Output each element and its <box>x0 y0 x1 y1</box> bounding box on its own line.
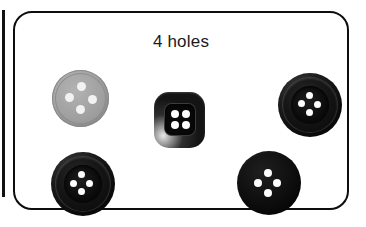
button-hole <box>77 82 86 91</box>
button-black-rimmed-top-right <box>278 73 342 137</box>
button-rim <box>55 73 106 124</box>
button-hole <box>88 95 97 104</box>
button-gray-round <box>52 70 109 127</box>
button-hole <box>254 179 262 187</box>
panel-title: 4 holes <box>15 33 347 50</box>
button-hole <box>182 110 190 118</box>
button-hole <box>70 180 77 187</box>
button-hole <box>86 180 93 187</box>
button-rim <box>239 153 299 213</box>
button-hole <box>306 109 313 116</box>
button-hole <box>264 189 272 197</box>
button-hole <box>171 121 179 129</box>
button-hole <box>306 92 313 99</box>
button-hole <box>171 110 179 118</box>
button-black-flat-bottom-right <box>237 151 301 215</box>
button-black-rimmed-bottom-left <box>51 152 115 216</box>
button-square-dark <box>154 92 205 148</box>
button-hole <box>182 121 190 129</box>
button-hole <box>273 179 281 187</box>
button-hole <box>314 101 321 108</box>
image-canvas: 4 holes <box>0 0 366 227</box>
button-inner-recess <box>165 104 195 135</box>
buttons-panel: 4 holes <box>13 11 349 210</box>
button-hole <box>65 93 74 102</box>
button-hole <box>76 105 85 114</box>
left-edge-divider <box>2 10 5 197</box>
button-hole <box>264 169 272 177</box>
button-hole <box>78 188 85 195</box>
button-hole <box>78 171 85 178</box>
button-hole <box>298 100 305 107</box>
